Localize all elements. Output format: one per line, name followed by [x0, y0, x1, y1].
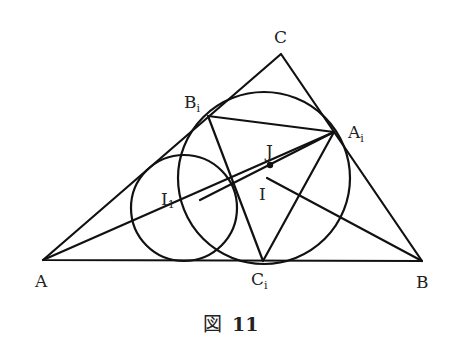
label-c: C [274, 27, 287, 47]
caption-number: 11 [232, 313, 258, 335]
line-i-b [267, 178, 422, 261]
label-ai: Ai [347, 122, 364, 145]
figure-caption: 図11 [203, 313, 258, 335]
point-j-dot [267, 162, 273, 168]
label-b: B [416, 272, 429, 292]
caption-prefix: 図 [203, 313, 222, 335]
label-a: A [34, 271, 48, 291]
label-j: J [264, 141, 273, 161]
label-i1: I1 [161, 189, 175, 211]
line-a-ai [43, 132, 334, 260]
label-bi: Bi [184, 92, 201, 115]
label-ci: Ci [251, 269, 268, 292]
label-i: I [259, 184, 266, 204]
incircle [178, 92, 350, 264]
geometry-figure: A B C Bi Ai Ci J I I1 図11 [0, 0, 458, 352]
